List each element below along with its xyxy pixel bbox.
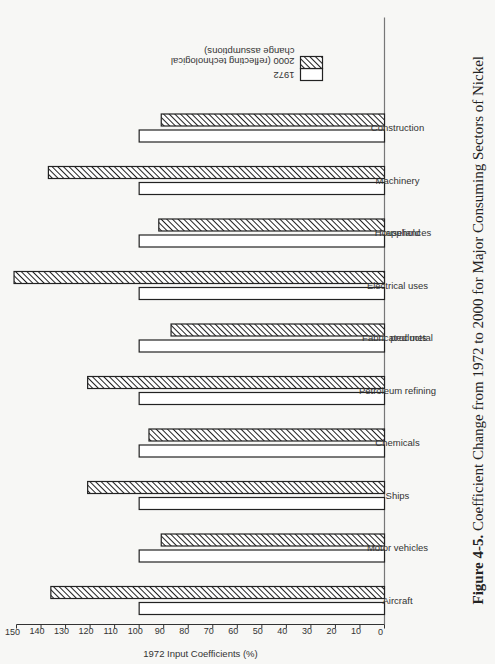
bar-2000 — [87, 376, 384, 388]
category-label: appliances — [385, 227, 431, 238]
tick-label: 20 — [326, 626, 336, 636]
category-label: Construction — [370, 122, 423, 133]
tick-label: 140 — [29, 626, 44, 636]
bar-1972 — [139, 392, 384, 404]
bar-group-household-appliances — [139, 219, 384, 247]
tick-label: 50 — [252, 626, 262, 636]
bar-group-motor-vehicles — [139, 534, 384, 562]
category-label: Motor vehicles — [366, 542, 427, 553]
category-label: products — [390, 332, 427, 343]
bar-2000 — [48, 166, 384, 178]
category-label: Chemicals — [375, 437, 420, 448]
tick-label: 30 — [301, 626, 311, 636]
bar-1972 — [139, 497, 384, 509]
legend: 19722000 (reflecting technologicalchange… — [170, 45, 322, 80]
bar-2000 — [161, 534, 384, 546]
figure-label: Figure 4-5. — [469, 534, 485, 604]
figure-caption: Figure 4-5. Coefficient Change from 1972… — [469, 55, 485, 604]
bar-group-fabricated-metal-products — [139, 324, 384, 352]
bar-2000 — [148, 429, 384, 441]
tick-label: 100 — [127, 626, 142, 636]
tick-label: 110 — [103, 626, 117, 636]
category-label: Machinery — [375, 174, 419, 185]
tick-label: 120 — [78, 626, 93, 636]
bars — [14, 114, 384, 615]
y-axis-title: 1972 Input Coefficients (%) — [143, 647, 257, 658]
bar-1972 — [139, 182, 384, 194]
category-label: Ships — [385, 489, 409, 500]
bar-1972 — [139, 602, 384, 614]
category-label: Electrical uses — [366, 279, 427, 290]
bar-1972 — [139, 550, 384, 562]
bar-1972 — [139, 235, 384, 247]
bar-group-construction — [139, 114, 384, 142]
legend-swatch-1972 — [300, 68, 322, 80]
bar-1972 — [139, 340, 384, 352]
tick-label: 150 — [4, 626, 19, 636]
tick-label: 40 — [277, 626, 287, 636]
tick-label: 0 — [377, 626, 382, 636]
tick-label: 60 — [228, 626, 238, 636]
caption-text: Coefficient Change from 1972 to 2000 for… — [469, 55, 485, 530]
category-label: Aircraft — [382, 594, 412, 605]
bar-2000 — [14, 271, 384, 283]
tick-label: 90 — [154, 626, 164, 636]
tick-label: 130 — [54, 626, 69, 636]
bar-group-electrical-uses — [14, 271, 384, 299]
legend-label: change assumptions) — [204, 45, 294, 56]
bar-1972 — [139, 445, 384, 457]
bar-chart: 0102030405060708090100110120130140150 Ai… — [0, 0, 495, 664]
category-label: Petroleum refining — [358, 384, 435, 395]
bar-group-machinery — [48, 166, 384, 194]
legend-label: 1972 — [273, 69, 294, 80]
bar-2000 — [158, 219, 384, 231]
chart-figure: 0102030405060708090100110120130140150 Ai… — [0, 0, 495, 664]
bar-group-ships — [87, 481, 384, 509]
legend-swatch-2000 — [300, 56, 322, 68]
bar-2000 — [171, 324, 384, 336]
tick-label: 10 — [350, 626, 360, 636]
tick-label: 80 — [179, 626, 189, 636]
bar-group-chemicals — [139, 429, 384, 457]
bar-group-petroleum-refining — [87, 376, 384, 404]
bar-2000 — [87, 481, 384, 493]
bar-1972 — [139, 130, 384, 142]
bar-1972 — [139, 287, 384, 299]
tick-label: 70 — [203, 626, 213, 636]
bar-group-aircraft — [50, 586, 384, 614]
bar-2000 — [161, 114, 384, 126]
bar-2000 — [50, 586, 384, 598]
